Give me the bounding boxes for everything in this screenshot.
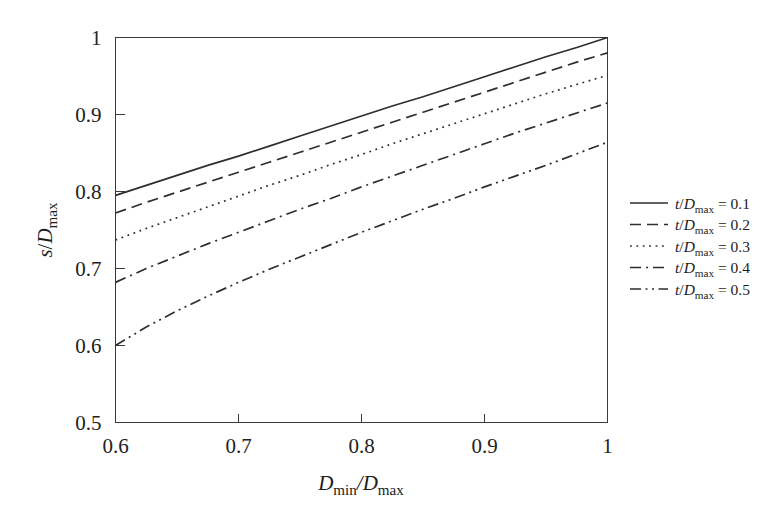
chart-svg: 0.50.60.70.80.91 0.60.70.80.91 Dmin/Dmax… — [0, 0, 777, 521]
y-axis-title-s: s — [33, 249, 57, 257]
svg-text:s/Dmax: s/Dmax — [33, 202, 60, 258]
x-tick-label: 0.9 — [471, 434, 497, 458]
x-tick-label: 0.6 — [102, 434, 128, 458]
chart-figure: 0.50.60.70.80.91 0.60.70.80.91 Dmin/Dmax… — [0, 0, 777, 521]
chart-legend: t/Dmax = 0.1t/Dmax = 0.2t/Dmax = 0.3t/Dm… — [630, 195, 750, 301]
y-tick-label: 0.6 — [75, 334, 101, 358]
curve-dashed — [116, 53, 608, 213]
y-tick-label: 0.7 — [75, 257, 101, 281]
curve-dotted — [116, 75, 608, 240]
legend-label: t/Dmax = 0.1 — [675, 195, 750, 215]
legend-label: t/Dmax = 0.3 — [675, 238, 750, 258]
x-tick-label: 1 — [602, 434, 613, 458]
legend-label: t/Dmax = 0.5 — [675, 281, 750, 301]
legend-label: t/Dmax = 0.2 — [675, 216, 750, 236]
curve-solid — [116, 38, 608, 196]
x-axis-title-d1: D — [317, 471, 333, 495]
plot-frame — [116, 38, 608, 423]
y-axis-title: s/Dmax — [33, 202, 60, 258]
legend-label: t/Dmax = 0.4 — [675, 259, 750, 279]
y-tick-labels: 0.50.60.70.80.91 — [75, 26, 101, 435]
x-axis-title-d2: D — [362, 471, 378, 495]
curve-dashdot — [116, 103, 608, 282]
x-tick-labels: 0.60.70.80.91 — [102, 434, 612, 458]
curve-dashdotdot — [116, 142, 608, 345]
y-axis-title-d: D — [33, 228, 57, 244]
x-tick-label: 0.8 — [348, 434, 374, 458]
y-tick-label: 0.5 — [75, 411, 101, 435]
x-axis-ticks — [116, 414, 608, 423]
y-tick-label: 0.9 — [75, 103, 101, 127]
y-tick-label: 1 — [91, 26, 102, 50]
x-axis-title: Dmin/Dmax — [317, 471, 404, 498]
svg-text:Dmin/Dmax: Dmin/Dmax — [317, 471, 404, 498]
y-tick-label: 0.8 — [75, 180, 101, 204]
y-axis-title-sub: max — [44, 202, 60, 228]
x-axis-title-sub1: min — [333, 482, 357, 498]
y-axis-ticks — [116, 38, 125, 423]
data-curves — [116, 38, 608, 346]
x-axis-title-sub2: max — [378, 482, 404, 498]
x-tick-label: 0.7 — [225, 434, 251, 458]
